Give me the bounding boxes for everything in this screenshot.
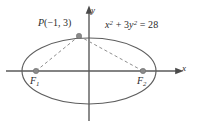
point-p-label: P(−1, 3)	[38, 18, 71, 28]
ellipse-figure: x y P(−1, 3) F1 F2 x2 + 3y2 = 28	[0, 0, 197, 130]
equation-equals: =	[137, 19, 148, 30]
focus-1-label: F1	[30, 76, 40, 88]
point-p-x-value: −1	[47, 17, 58, 28]
point-p-paren-close: )	[68, 17, 71, 28]
y-axis-label: y	[91, 6, 95, 15]
point-p-dot	[76, 33, 81, 38]
focus-2-dot	[140, 68, 145, 73]
x-axis-label: x	[182, 64, 186, 73]
focus-1-subscript: 1	[36, 80, 39, 87]
focus-1-dot	[33, 68, 38, 73]
equation-constant: 28	[148, 19, 158, 30]
equation-plus: +	[113, 19, 124, 30]
ellipse-equation-label: x2 + 3y2 = 28	[105, 20, 158, 30]
focus-2-label: F2	[137, 76, 147, 88]
figure-canvas	[0, 0, 197, 130]
focus-2-subscript: 2	[143, 80, 146, 87]
